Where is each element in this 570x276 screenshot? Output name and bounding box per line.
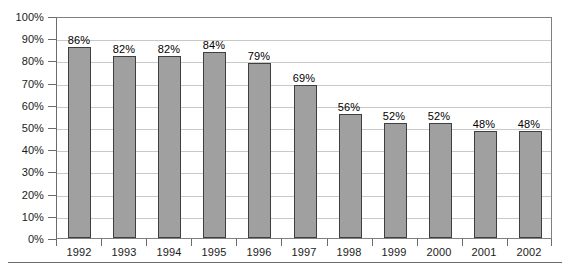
chart-figure: 0%10%20%30%40%50%60%70%80%90%100% 86%82%… xyxy=(0,0,570,276)
y-axis-tick-label: 100% xyxy=(0,12,44,23)
x-axis-tick-mark xyxy=(236,239,237,246)
y-axis-tick-label: 0% xyxy=(0,234,44,245)
x-axis-tick-label: 1995 xyxy=(192,246,236,259)
x-axis-tick-label: 2002 xyxy=(507,246,551,259)
y-axis-tick-mark xyxy=(48,17,56,18)
bar xyxy=(339,114,362,238)
y-axis-tick-mark xyxy=(48,61,56,62)
y-axis-tick-label: 80% xyxy=(0,56,44,67)
x-axis-tick-label: 2000 xyxy=(417,246,461,259)
y-axis-tick-mark xyxy=(48,84,56,85)
x-axis-tick-mark xyxy=(101,239,102,246)
bar xyxy=(248,63,271,238)
x-axis-tick-label: 1999 xyxy=(372,246,416,259)
bar xyxy=(429,123,452,238)
x-axis-tick-label: 1994 xyxy=(147,246,191,259)
x-axis-tick-mark xyxy=(327,239,328,246)
bar xyxy=(474,131,497,238)
y-axis-tick-label: 70% xyxy=(0,79,44,90)
bar xyxy=(519,131,542,238)
footer-divider xyxy=(8,262,562,263)
y-axis-tick-mark xyxy=(48,195,56,196)
y-axis-tick-mark xyxy=(48,39,56,40)
y-axis-tick-label: 90% xyxy=(0,34,44,45)
y-axis-tick-mark xyxy=(48,150,56,151)
plot-area xyxy=(56,17,552,239)
x-axis-tick-labels: 1992199319941995199619971998199920002001… xyxy=(56,246,552,262)
x-axis-tick-marks xyxy=(56,239,552,246)
x-axis-tick-mark xyxy=(56,239,57,246)
x-axis-tick-label: 1996 xyxy=(237,246,281,259)
y-axis-tick-label: 40% xyxy=(0,145,44,156)
y-axis-tick-label: 60% xyxy=(0,101,44,112)
x-axis-tick-label: 2001 xyxy=(462,246,506,259)
x-axis-tick-mark xyxy=(417,239,418,246)
y-axis-tick-mark xyxy=(48,239,56,240)
x-axis-tick-mark xyxy=(507,239,508,246)
x-axis-tick-mark xyxy=(281,239,282,246)
bar xyxy=(158,56,181,238)
x-axis-tick-mark xyxy=(191,239,192,246)
y-axis-tick-mark xyxy=(48,128,56,129)
y-axis-tick-label: 50% xyxy=(0,123,44,134)
x-axis-tick-label: 1997 xyxy=(282,246,326,259)
y-axis-tick-label: 10% xyxy=(0,212,44,223)
x-axis-tick-mark xyxy=(551,239,552,246)
y-axis-tick-mark xyxy=(48,106,56,107)
x-axis-tick-mark xyxy=(462,239,463,246)
bar-series xyxy=(57,18,551,238)
bar xyxy=(294,85,317,238)
y-axis-tick-mark xyxy=(48,172,56,173)
y-axis-tick-labels: 0%10%20%30%40%50%60%70%80%90%100% xyxy=(0,17,44,239)
x-axis-tick-mark xyxy=(146,239,147,246)
y-axis-tick-marks xyxy=(48,17,56,239)
bar xyxy=(68,47,91,238)
bar xyxy=(113,56,136,238)
x-axis-tick-label: 1992 xyxy=(57,246,101,259)
x-axis-tick-label: 1993 xyxy=(102,246,146,259)
y-axis-tick-label: 30% xyxy=(0,167,44,178)
y-axis-tick-mark xyxy=(48,217,56,218)
x-axis-tick-label: 1998 xyxy=(327,246,371,259)
x-axis-tick-mark xyxy=(372,239,373,246)
bar xyxy=(203,52,226,238)
y-axis-tick-label: 20% xyxy=(0,190,44,201)
bar xyxy=(384,123,407,238)
